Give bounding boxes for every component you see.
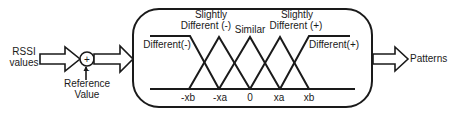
- label-different-pos: Different(+): [309, 39, 359, 50]
- reference-label-line2: Value: [75, 89, 100, 100]
- reference-label-line1: Reference: [64, 78, 111, 89]
- output-label: Patterns: [410, 53, 447, 64]
- label-slightly-neg-line2: Different (-): [181, 20, 231, 31]
- tick-zero: 0: [247, 92, 253, 103]
- label-slightly-neg-line1: Slightly: [195, 9, 227, 20]
- label-slightly-pos-line1: Slightly: [281, 9, 313, 20]
- input-arrow: [40, 47, 80, 71]
- input-label-line1: RSSI: [12, 46, 35, 57]
- fuzzy-diagram: + - RSSI values Reference Value Differen…: [0, 0, 457, 115]
- tick-neg-xa: -xa: [213, 92, 227, 103]
- output-arrow: [373, 47, 408, 71]
- tick-neg-xb: -xb: [181, 92, 195, 103]
- tick-xa: xa: [274, 92, 285, 103]
- plus-sign: +: [84, 54, 90, 65]
- label-different-neg: Different(-): [143, 39, 191, 50]
- label-slightly-pos-line2: Different (+): [270, 20, 323, 31]
- tick-xb: xb: [304, 92, 315, 103]
- input-label-line2: values: [10, 57, 39, 68]
- junction-to-fuzzifier-arrow: [94, 46, 133, 72]
- label-similar: Similar: [235, 24, 266, 35]
